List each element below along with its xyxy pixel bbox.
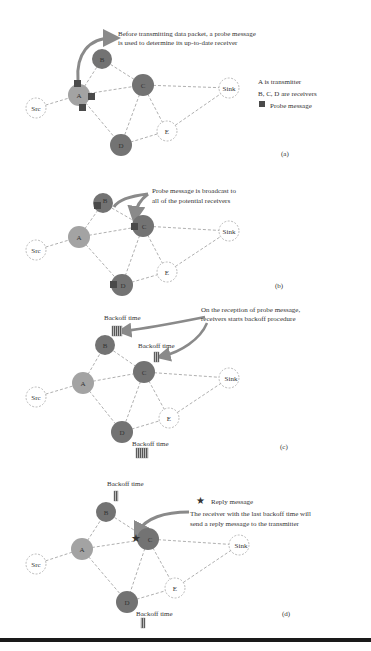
backoff-bar-d	[136, 448, 148, 458]
annotation-b-line1: Probe message is broadcast to	[152, 187, 236, 195]
bottom-rule	[0, 638, 371, 642]
caption-d: (d)	[282, 610, 291, 618]
caption-b: (b)	[275, 282, 284, 290]
label-e: E	[173, 585, 177, 593]
probe-legend-icon	[259, 101, 265, 107]
probe-messages-b	[94, 202, 138, 288]
label-src: Src	[31, 394, 40, 402]
annotation-c-line1: On the reception of probe message,	[201, 306, 300, 314]
annotation-b-line2: all of the potential receivers	[152, 197, 230, 205]
caption-a: (a)	[281, 150, 289, 158]
label-d: D	[118, 142, 123, 150]
caption-c: (c)	[280, 443, 288, 451]
legend-receivers: B, C, D are receivers	[258, 90, 317, 98]
backoff-label-b: Backoff time	[104, 314, 141, 322]
panel-d: ★ ★ Src A B C Sink E D Backoff time Repl…	[26, 480, 311, 628]
label-sink: Sink	[235, 542, 248, 550]
label-e: E	[165, 128, 169, 136]
label-c: C	[142, 223, 147, 231]
panel-c: Src A B C Sink E D On the reception of p…	[26, 306, 300, 458]
label-src: Src	[31, 105, 40, 113]
backoff-label-d: Backoff time	[136, 610, 173, 618]
annotation-a-line2: is used to determine its up-to-date rece…	[118, 39, 238, 47]
label-e: E	[167, 415, 171, 423]
annotation-c-line2: receivers starts backoff procedure	[201, 315, 296, 323]
panel-a: Src A B C Sink E D Before transmitting d…	[26, 30, 317, 158]
label-src: Src	[31, 247, 40, 255]
backoff-label-c: Backoff time	[138, 342, 175, 350]
backoff-label-d: Backoff time	[132, 440, 169, 448]
label-c: C	[142, 369, 147, 377]
label-d: D	[120, 282, 125, 290]
label-d: D	[124, 599, 129, 607]
annotation-arrow-c2	[163, 323, 207, 356]
legend-probe: Probe message	[270, 102, 312, 110]
label-sink: Sink	[225, 375, 238, 383]
label-d: D	[119, 429, 124, 437]
legend-transmitter: A is transmitter	[258, 78, 302, 86]
label-b: B	[103, 342, 108, 350]
annotation-a-line1: Before transmitting data packet, a probe…	[118, 30, 256, 38]
network-diagram: Src A B C Sink E D Before transmitting d…	[0, 0, 371, 651]
backoff-bar-b	[112, 326, 122, 336]
reply-legend-star-icon: ★	[196, 495, 205, 506]
legend-reply: Reply message	[211, 498, 253, 506]
nodes	[26, 49, 239, 156]
panel-b: Src A B C Sink E D Probe message is broa…	[26, 187, 284, 296]
label-b: B	[103, 197, 108, 205]
label-sink: Sink	[223, 85, 236, 93]
label-e: E	[165, 269, 169, 277]
annotation-d-line2: send a reply message to the transmitter	[190, 520, 300, 528]
label-a: A	[79, 546, 84, 554]
reply-star-icon: ★	[131, 532, 141, 544]
node-labels: Src A B C Sink E D	[31, 56, 236, 150]
edges	[36, 59, 229, 145]
label-src: Src	[31, 561, 40, 569]
label-a: A	[80, 380, 85, 388]
backoff-label-b: Backoff time	[107, 480, 144, 488]
annotation-d-line1: The receiver with the last backoff time …	[190, 510, 311, 518]
backoff-bar-c	[154, 352, 159, 362]
label-c: C	[148, 536, 153, 544]
label-b: B	[104, 509, 109, 517]
label-b: B	[100, 56, 105, 64]
label-a: A	[76, 234, 81, 242]
label-c: C	[141, 82, 146, 90]
label-a: A	[76, 92, 81, 100]
label-sink: Sink	[223, 228, 236, 236]
